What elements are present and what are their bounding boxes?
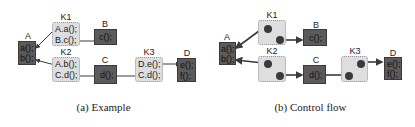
component-a: a(); b(); xyxy=(18,41,36,65)
code-line: B.c(); xyxy=(55,35,77,46)
node-k3-label: K3 xyxy=(141,47,157,57)
node-k3-label: K3 xyxy=(347,46,363,56)
port-dot xyxy=(276,36,284,44)
node-c-label: C xyxy=(99,55,111,65)
code-line: C.d(); xyxy=(138,70,161,81)
component-d: e(); f(); xyxy=(384,57,402,80)
connector-k1: A.a(); B.c(); xyxy=(52,22,80,46)
code-line: e(); xyxy=(180,60,194,71)
caption-control-flow: (b) Control flow xyxy=(207,101,414,113)
connector-k3 xyxy=(341,56,368,82)
port-dot xyxy=(276,72,284,80)
node-k2-label: K2 xyxy=(264,46,280,56)
code-line: D.e(); xyxy=(138,59,161,70)
node-d-label: D xyxy=(181,48,193,58)
code-line: f(); xyxy=(387,69,398,80)
connector-k1 xyxy=(258,20,286,45)
panel-example: A a(); b(); K1 A.a(); B.c(); B c(); K2 A… xyxy=(0,0,207,127)
component-b: c(); xyxy=(303,29,327,46)
connector-k3: D.e(); C.d(); xyxy=(135,57,163,82)
code-line: b(); xyxy=(20,53,34,64)
node-k1-label: K1 xyxy=(264,10,280,20)
code-line: C.d(); xyxy=(55,70,78,81)
panel-control-flow: A a(); b(); K1 B c(); K2 C d(); K3 D e()… xyxy=(207,0,414,127)
port-dot xyxy=(264,60,272,68)
code-line: c(); xyxy=(99,32,112,43)
code-line: A.a(); xyxy=(55,24,77,35)
component-b: c(); xyxy=(94,29,117,45)
node-a-label: A xyxy=(221,32,233,42)
component-c: d(); xyxy=(94,65,117,84)
node-c-label: C xyxy=(310,55,322,65)
caption-example: (a) Example xyxy=(0,101,207,113)
port-dot xyxy=(345,72,353,80)
node-k2-label: K2 xyxy=(58,47,74,57)
code-line: d(); xyxy=(309,70,323,81)
component-a: a(); b(); xyxy=(219,42,236,65)
node-a-label: A xyxy=(21,31,35,41)
node-k1-label: K1 xyxy=(58,12,74,22)
code-line: f(); xyxy=(180,71,191,82)
code-line: A.b(); xyxy=(55,59,77,70)
port-dot xyxy=(264,25,272,33)
component-c: d(); xyxy=(303,65,326,84)
node-b-label: B xyxy=(99,19,111,29)
component-d: e(); f(); xyxy=(177,58,196,82)
connector-k2 xyxy=(258,56,286,82)
code-line: d(); xyxy=(100,70,114,81)
code-line: c(); xyxy=(309,33,322,44)
connector-k2: A.b(); C.d(); xyxy=(52,57,80,82)
port-dot xyxy=(357,60,365,68)
code-line: b(); xyxy=(221,54,235,65)
